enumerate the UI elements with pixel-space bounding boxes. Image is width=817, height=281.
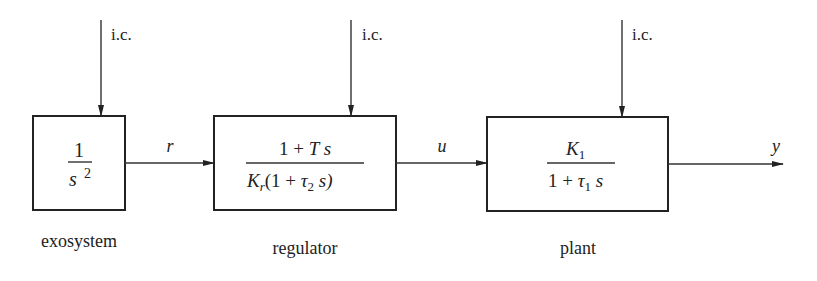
block-diagram: i.c. i.c. i.c. 1 s 2 exosystem r 1 + T s…: [0, 0, 817, 281]
regulator-numerator: 1 + T s: [279, 138, 331, 159]
exosystem-denominator-exponent: 2: [84, 166, 91, 181]
plant-box: [487, 117, 668, 211]
plant-caption: plant: [560, 238, 596, 258]
exosystem-caption: exosystem: [41, 231, 117, 251]
regulator-block: 1 + T s Kr(1 + τ2 s) regulator: [214, 116, 396, 258]
plant-denominator: 1 + τ1 s: [548, 170, 603, 194]
signal-label: r: [166, 136, 174, 156]
signal-y: y: [668, 136, 783, 164]
regulator-denominator: Kr(1 + τ2 s): [246, 170, 333, 194]
signal-u: u: [396, 136, 487, 163]
signal-label: u: [438, 136, 447, 156]
ic-input-exosystem: i.c.: [101, 20, 132, 116]
signal-r: r: [125, 136, 214, 163]
plant-block: K1 1 + τ1 s plant: [487, 117, 668, 258]
ic-label: i.c.: [632, 25, 653, 44]
exosystem-box: [33, 116, 125, 210]
exosystem-numerator: 1: [74, 139, 84, 161]
ic-input-regulator: i.c.: [351, 20, 383, 116]
ic-label: i.c.: [362, 25, 383, 44]
ic-input-plant: i.c.: [622, 20, 653, 117]
exosystem-block: 1 s 2 exosystem: [33, 116, 125, 251]
exosystem-denominator: s: [69, 168, 77, 190]
signal-label: y: [770, 136, 780, 156]
regulator-caption: regulator: [273, 238, 338, 258]
ic-label: i.c.: [111, 25, 132, 44]
plant-numerator: K1: [565, 138, 585, 162]
